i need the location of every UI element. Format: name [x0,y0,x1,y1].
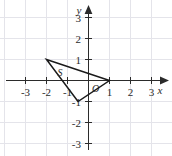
x-tick-label-neg2: -2 [42,86,51,98]
y-tick-label-neg2: -2 [72,117,81,129]
x-tick-label-3: 3 [149,86,155,98]
y-tick-label-neg1: -1 [72,96,81,108]
y-tick-label-neg3: -3 [72,138,82,150]
triangle-s-label: S [58,67,63,78]
y-axis-arrow-icon [85,5,93,14]
x-axis-label: x [157,84,163,96]
coordinate-plane-figure: -3 -2 -1 1 2 3 3 2 1 -1 -2 -3 O x y S [0,0,172,156]
x-tick-label-2: 2 [128,86,134,98]
y-axis-label: y [76,4,82,16]
y-tick-label-1: 1 [76,54,82,66]
coordinate-plot: -3 -2 -1 1 2 3 3 2 1 -1 -2 -3 O x y S [0,0,172,156]
x-tick-label-1: 1 [107,86,113,98]
y-tick-label-2: 2 [76,33,82,45]
x-axis [6,77,169,85]
x-tick-label-neg3: -3 [21,86,31,98]
y-axis [85,5,93,150]
